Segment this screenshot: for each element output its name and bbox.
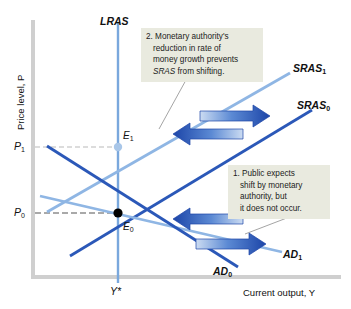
y-axis-title: Price level, P <box>16 75 26 130</box>
callout-1-line-1: 1. Public expects <box>233 168 325 180</box>
callout-2-leader-line <box>159 80 186 129</box>
callout-1-line-3: authority, but <box>233 191 325 203</box>
arrow-sras-right <box>200 105 270 127</box>
equilibrium-dot-e0 <box>113 208 122 217</box>
curve-label-ad1: AD1 <box>283 249 302 260</box>
callout-1-public-expects: 1. Public expects shift by monetary auth… <box>228 165 330 219</box>
tick-label-ystar: Y* <box>110 286 121 297</box>
callout-1-line-4: it does not occur. <box>233 203 325 215</box>
arrow-sras-left <box>173 123 243 145</box>
curve-label-lras: LRAS <box>100 16 129 27</box>
x-axis-title: Current output, Y <box>243 288 315 298</box>
equilibrium-label-e1: E1 <box>123 131 134 141</box>
curve-label-sras0: SRAS0 <box>297 100 330 111</box>
callout-2-monetary-authority: 2. Monetary authority's reduction in rat… <box>141 28 263 82</box>
callout-2-line-2: reduction in rate of <box>146 43 258 55</box>
tick-label-p0: P0 <box>14 207 25 218</box>
callout-2-line-3: money growth prevents <box>146 54 258 66</box>
callout-2-line-4-rest: from shifting. <box>175 67 224 76</box>
arrow-ad-right <box>196 233 266 255</box>
callout-2-italic-term: SRAS <box>153 67 175 76</box>
aggregate-supply-demand-diagram: Price level, P Current output, Y P1 P0 Y… <box>0 0 351 309</box>
curve-label-sras1: SRAS1 <box>293 63 326 74</box>
curve-label-ad0: AD0 <box>213 266 232 277</box>
callout-1-line-2: shift by monetary <box>233 180 325 192</box>
equilibrium-label-e0: E0 <box>123 222 134 232</box>
equilibrium-dot-e1 <box>114 143 122 151</box>
callout-1-leader-line <box>245 216 292 234</box>
callout-2-line-1: 2. Monetary authority's <box>146 31 258 43</box>
tick-label-p1: P1 <box>14 141 25 152</box>
callout-2-line-4: SRAS from shifting. <box>146 66 258 78</box>
